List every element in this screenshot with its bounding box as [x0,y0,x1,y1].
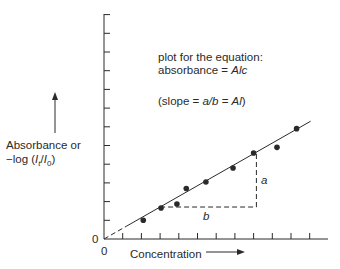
data-point [158,205,164,211]
origin-y-label: 0 [92,233,98,246]
data-point [183,186,189,192]
data-points [140,126,299,223]
data-point [251,150,257,156]
slope-al: Al [232,95,242,107]
slope-ratio: a/b [202,95,218,107]
y-axis-label-line2: −log (It/I0) [6,153,55,170]
data-point [230,165,236,171]
axis-direction-arrows [52,92,245,255]
slope-annotation: (slope = a/b = Al) [158,95,246,108]
triangle-label-b: b [203,210,209,223]
x-direction-arrowhead [237,249,245,255]
equation-italic: Alc [231,64,247,76]
y-label-suffix: ) [51,153,55,165]
x-axis-label: Concentration [130,248,202,261]
slope-prefix: (slope = [158,95,202,107]
equation-prefix: absorbance = [158,64,231,76]
axis-ticks [104,15,310,239]
data-point [174,201,180,207]
slope-suffix: ) [242,95,246,107]
origin-x-label: 0 [101,245,107,258]
y-axis-label-line1: Absorbance or [6,139,81,152]
best-fit-line [126,121,310,226]
y-direction-arrowhead [52,92,58,100]
triangle-label-a: a [261,174,267,187]
equation-line2: absorbance = Alc [158,64,247,77]
data-point [203,179,209,185]
data-point [294,126,300,132]
slope-mid: = [218,95,231,107]
axes [104,14,328,239]
chart-canvas [0,0,340,269]
y-label-prefix: −log ( [6,153,35,165]
data-point [140,218,146,224]
equation-line1: plot for the equation: [158,51,263,64]
data-point [274,145,280,151]
